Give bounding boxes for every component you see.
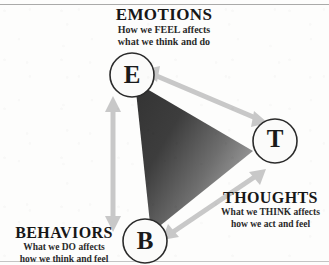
node-label-thoughts: T	[252, 126, 298, 151]
subtitle-emotions-line2: what we think and do	[74, 37, 254, 48]
subtitle-thoughts-line1: What we THINK affects	[212, 207, 329, 217]
arrowhead-toward-emotions-left	[105, 96, 121, 112]
heading-behaviors: BEHAVIORS	[2, 224, 126, 241]
label-block-thoughts: THOUGHTS What we THINK affects how we ac…	[212, 189, 329, 229]
subtitle-behaviors-line1: What we DO affects	[2, 242, 126, 252]
label-block-behaviors: BEHAVIORS What we DO affects how we thin…	[2, 224, 126, 264]
label-block-emotions: EMOTIONS How we FEEL affects what we thi…	[74, 6, 254, 48]
subtitle-thoughts-line2: how we act and feel	[212, 219, 329, 229]
heading-thoughts: THOUGHTS	[212, 189, 329, 206]
subtitle-emotions-line1: How we FEEL affects	[74, 25, 254, 36]
subtitle-behaviors-line2: how we think and feel	[2, 254, 126, 264]
cbt-triangle-diagram: E T B EMOTIONS How we FEEL affects what …	[0, 0, 329, 265]
node-label-behaviors: B	[122, 228, 168, 253]
heading-emotions: EMOTIONS	[74, 6, 254, 24]
node-label-emotions: E	[109, 62, 155, 87]
